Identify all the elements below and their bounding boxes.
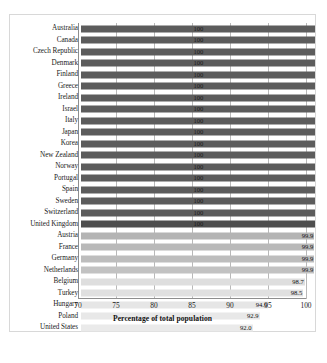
bar-track: 100	[81, 23, 315, 35]
category-label: Korea	[10, 140, 81, 147]
bar-value-label: 100	[194, 25, 204, 32]
bar	[81, 278, 305, 285]
bar-row: Finland100	[10, 69, 315, 81]
bar-track: 100	[81, 150, 315, 162]
chart-figure: Australia100Canada100Czech Republic100De…	[9, 14, 316, 332]
bar-row: United Kingdom100	[10, 219, 315, 231]
bar-value-label: 92.0	[240, 324, 252, 331]
category-label: Hungary	[10, 301, 81, 308]
bar-value-label: 100	[194, 106, 204, 113]
x-tick-label: 100	[300, 301, 311, 310]
category-label: Portugal	[10, 175, 81, 182]
bar-value-label: 100	[194, 37, 204, 44]
bar-track: 98.5	[81, 288, 315, 300]
bar-value-label: 98.7	[292, 278, 304, 285]
category-label: Austria	[10, 232, 81, 239]
bar-row: Sweden100	[10, 196, 315, 208]
category-label: Netherlands	[10, 267, 81, 274]
category-label: Denmark	[10, 60, 81, 67]
bar-value-label: 100	[194, 60, 204, 67]
bar-value-label: 100	[194, 175, 204, 182]
bar-track: 100	[81, 127, 315, 139]
bar-value-label: 99.9	[302, 232, 314, 239]
x-tick-label: 75	[112, 301, 119, 310]
category-label: Finland	[10, 71, 81, 78]
bar-track: 100	[81, 69, 315, 81]
x-tick-label: 70	[74, 301, 81, 310]
bar-row: Germany99.9	[10, 253, 315, 265]
bar	[81, 232, 314, 239]
bar-value-label: 100	[194, 117, 204, 124]
bar-row: United States92.0	[10, 322, 315, 334]
bar-row: Australia100	[10, 23, 315, 35]
x-axis-title: Percentage of total population	[10, 314, 315, 323]
bar-track: 100	[81, 92, 315, 104]
bar-row: Turkey98.5	[10, 288, 315, 300]
bar-track: 100	[81, 35, 315, 47]
bar-track: 92.0	[81, 322, 315, 334]
bar-track: 99.9	[81, 265, 315, 277]
category-label: France	[10, 244, 81, 251]
bar-row: Ireland100	[10, 92, 315, 104]
x-axis-ticks: 707580859095100	[78, 301, 306, 313]
bar-row: Denmark100	[10, 58, 315, 70]
bar-value-label: 100	[194, 140, 204, 147]
x-tick-label: 85	[188, 301, 195, 310]
bar-value-label: 100	[194, 209, 204, 216]
category-label: Israel	[10, 106, 81, 113]
bar	[81, 324, 253, 331]
bar-track: 100	[81, 173, 315, 185]
bar-value-label: 100	[194, 221, 204, 228]
bar-value-label: 100	[194, 71, 204, 78]
category-label: Turkey	[10, 290, 81, 297]
bar-track: 100	[81, 161, 315, 173]
bar-track: 99.9	[81, 242, 315, 254]
bar-row: Spain100	[10, 184, 315, 196]
bar-row: Greece100	[10, 81, 315, 93]
bar-value-label: 100	[194, 94, 204, 101]
bar-row: Netherlands99.9	[10, 265, 315, 277]
bar-row: Italy100	[10, 115, 315, 127]
category-label: Ireland	[10, 94, 81, 101]
category-label: Canada	[10, 37, 81, 44]
bar-row: Korea100	[10, 138, 315, 150]
bar-value-label: 100	[194, 83, 204, 90]
bar-track: 99.9	[81, 230, 315, 242]
bar-row: Czech Republic100	[10, 46, 315, 58]
bar-row: Switzerland100	[10, 207, 315, 219]
bar-value-label: 100	[194, 129, 204, 136]
category-label: Czech Republic	[10, 48, 81, 55]
bar-row: Canada100	[10, 35, 315, 47]
bar-row: New Zealand100	[10, 150, 315, 162]
x-tick-label: 95	[264, 301, 271, 310]
bar-row: Japan100	[10, 127, 315, 139]
bar-track: 100	[81, 115, 315, 127]
category-label: Belgium	[10, 278, 81, 285]
bar-track: 100	[81, 196, 315, 208]
bar-row: Portugal100	[10, 173, 315, 185]
bar-row: France99.9	[10, 242, 315, 254]
x-tick-label: 80	[150, 301, 157, 310]
bar	[81, 290, 303, 297]
category-label: Switzerland	[10, 209, 81, 216]
bar	[81, 244, 314, 251]
bar-value-label: 100	[194, 198, 204, 205]
bar-value-label: 99.9	[302, 244, 314, 251]
category-label: Germany	[10, 255, 81, 262]
category-label: Sweden	[10, 198, 81, 205]
x-tick-label: 90	[226, 301, 233, 310]
category-label: Japan	[10, 129, 81, 136]
bar-value-label: 99.9	[302, 267, 314, 274]
bar-track: 100	[81, 104, 315, 116]
category-label: Norway	[10, 163, 81, 170]
bar-track: 100	[81, 138, 315, 150]
bar	[81, 255, 314, 262]
category-label: Spain	[10, 186, 81, 193]
bar-value-label: 100	[194, 48, 204, 55]
category-label: United Kingdom	[10, 221, 81, 228]
category-label: Greece	[10, 83, 81, 90]
category-label: Italy	[10, 117, 81, 124]
bar-rows: Australia100Canada100Czech Republic100De…	[10, 23, 315, 299]
bar-track: 98.7	[81, 276, 315, 288]
category-label: United States	[10, 324, 81, 331]
